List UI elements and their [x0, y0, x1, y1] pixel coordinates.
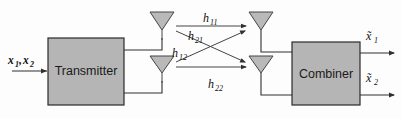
input-x2-sub: 2 — [29, 60, 34, 69]
mimo-block-diagram: Transmitter Combiner x 1 , x 2 h 11 h 21… — [0, 0, 401, 119]
h21-sub: 21 — [195, 36, 203, 45]
h22-arrowhead — [241, 65, 247, 69]
diagram-canvas: Transmitter Combiner x 1 , x 2 h 11 h 21… — [0, 0, 401, 119]
output-label-2: x̃ 2 — [365, 71, 378, 87]
h21-base: h — [188, 29, 194, 43]
output-wire-1-group — [360, 51, 395, 56]
combiner-label: Combiner — [299, 67, 353, 81]
channel-label-h11: h 11 — [203, 11, 217, 27]
h22-base: h — [208, 77, 214, 91]
output-label-1: x̃ 1 — [365, 29, 378, 45]
receive-antenna-1-feed — [261, 30, 292, 52]
transmit-antenna-1[interactable] — [150, 12, 174, 40]
channel-label-h21: h 21 — [188, 29, 203, 45]
input-signal-label: x 1 , x 2 — [7, 54, 34, 69]
channel-label-h12: h 12 — [172, 46, 187, 62]
h22-sub: 22 — [215, 84, 223, 93]
receive-antenna-2-feed — [261, 73, 292, 95]
tx1-feed-wire — [124, 38, 162, 50]
output-2-sub: 2 — [374, 78, 378, 87]
input-x1-base: x — [7, 54, 14, 66]
h11-sub: 11 — [210, 18, 217, 27]
h12-base: h — [172, 46, 178, 60]
receive-antenna-2-icon — [249, 56, 273, 73]
h11-arrowhead — [241, 24, 247, 28]
output-1-base: x̃ — [365, 29, 372, 43]
transmit-antenna-2-icon — [150, 56, 174, 73]
transmit-antenna-1-icon — [150, 12, 174, 30]
h11-base: h — [203, 11, 209, 25]
input-arrowhead — [41, 69, 47, 74]
transmitter-label: Transmitter — [55, 64, 118, 78]
receive-antenna-1-icon — [249, 12, 273, 30]
receive-antenna-2[interactable] — [249, 56, 292, 95]
tx2-feed-wire — [124, 81, 162, 93]
output-1-arrowhead — [389, 51, 395, 56]
output-1-sub: 1 — [374, 36, 378, 45]
h12-sub: 12 — [179, 53, 187, 62]
input-comma: , — [18, 54, 22, 66]
output-2-base: x̃ — [365, 71, 372, 85]
transmit-antenna-2[interactable] — [150, 56, 174, 83]
output-wire-2-group — [360, 93, 395, 98]
channel-label-h22: h 22 — [208, 77, 223, 93]
receive-antenna-1[interactable] — [249, 12, 292, 52]
input-x2-base: x — [22, 54, 29, 66]
output-2-arrowhead — [389, 93, 395, 98]
input-wire-group — [12, 69, 47, 74]
channel-path-h22 — [176, 65, 247, 69]
